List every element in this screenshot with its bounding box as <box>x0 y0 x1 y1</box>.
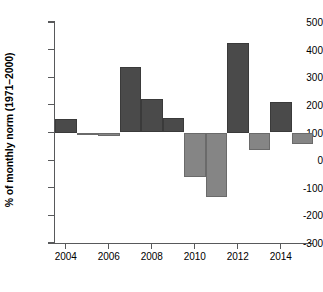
bar <box>270 102 292 132</box>
bar <box>77 133 99 136</box>
x-axis-tick <box>237 244 238 249</box>
y-axis-tick <box>48 77 54 78</box>
bar <box>163 118 185 133</box>
x-axis-tick <box>194 244 195 249</box>
bar <box>55 119 77 133</box>
y-axis-tick <box>48 187 54 188</box>
bar <box>292 133 314 145</box>
y-axis-tick <box>48 21 54 22</box>
x-axis-tick-label: 2008 <box>141 251 163 262</box>
x-axis-tick <box>151 244 152 249</box>
y-axis-tick <box>48 132 54 133</box>
y-axis-title: % of monthly norm (1971–2000) <box>0 0 18 260</box>
x-axis-tick-label: 2004 <box>55 251 77 262</box>
x-axis-tick <box>65 244 66 249</box>
bar <box>249 133 271 151</box>
bar <box>98 133 120 137</box>
x-axis-tick-label: 2006 <box>98 251 120 262</box>
bar <box>227 43 249 133</box>
x-axis-tick <box>108 244 109 249</box>
x-axis-tick-label: 2014 <box>270 251 292 262</box>
y-axis-tick <box>48 49 54 50</box>
x-axis-tick-label: 2010 <box>184 251 206 262</box>
x-axis-tick-label: 2012 <box>227 251 249 262</box>
y-axis-title-text: % of monthly norm (1971–2000) <box>3 53 15 208</box>
bar <box>141 99 163 133</box>
bar <box>206 133 228 198</box>
y-axis-tick <box>48 104 54 105</box>
x-axis-tick <box>280 244 281 249</box>
y-axis-tick <box>48 160 54 161</box>
bar-chart: % of monthly norm (1971–2000) 5004003002… <box>0 0 323 292</box>
bar <box>184 133 206 177</box>
x-axis-line <box>54 243 313 244</box>
y-axis-tick <box>48 242 54 243</box>
bar-series <box>55 22 313 243</box>
bar <box>120 67 142 133</box>
y-axis-tick <box>48 215 54 216</box>
